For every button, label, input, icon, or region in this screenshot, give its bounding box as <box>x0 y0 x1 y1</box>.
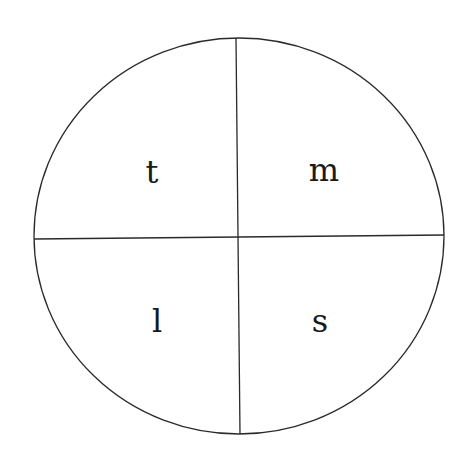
quadrant-label-bottom-right: s <box>312 302 328 340</box>
quadrant-label-bottom-left: l <box>152 302 162 340</box>
quadrant-circle-diagram: t m l s <box>0 0 464 453</box>
quadrant-label-top-left: t <box>146 153 159 191</box>
horizontal-divider <box>34 235 444 239</box>
vertical-divider <box>236 38 240 434</box>
quadrant-label-top-right: m <box>309 151 339 189</box>
